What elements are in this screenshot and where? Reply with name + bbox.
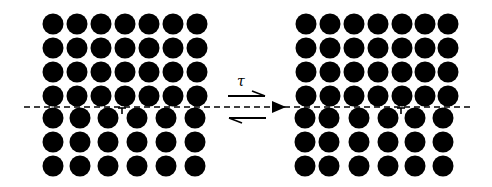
shear-arrow-top (228, 91, 265, 96)
atom (67, 62, 88, 83)
atom (163, 38, 184, 59)
atom (67, 38, 88, 59)
atom (139, 86, 160, 107)
atom (320, 38, 341, 59)
atom (296, 86, 317, 107)
atom (43, 156, 64, 177)
atom (70, 156, 91, 177)
atom (163, 62, 184, 83)
dislocation-diagram (0, 0, 492, 187)
atom (378, 108, 399, 129)
atom (185, 132, 206, 153)
atom (368, 38, 389, 59)
atom (187, 14, 208, 35)
atom (320, 14, 341, 35)
atom (187, 38, 208, 59)
atom (438, 38, 459, 59)
atom (320, 62, 341, 83)
atom (43, 62, 64, 83)
atom (98, 156, 119, 177)
atom (320, 86, 341, 107)
atom (115, 62, 136, 83)
atom (115, 38, 136, 59)
atom (139, 38, 160, 59)
atom (405, 156, 426, 177)
atom (156, 108, 177, 129)
atom (91, 86, 112, 107)
atom (185, 108, 206, 129)
atom (405, 132, 426, 153)
atom (349, 132, 370, 153)
atom (392, 38, 413, 59)
atom (91, 62, 112, 83)
atom (127, 132, 148, 153)
atom (368, 62, 389, 83)
atom (98, 108, 119, 129)
slip-plane-arrowhead (272, 101, 286, 113)
atom (368, 14, 389, 35)
atom (43, 14, 64, 35)
atom (415, 38, 436, 59)
atom (368, 86, 389, 107)
atom (43, 86, 64, 107)
atom (70, 132, 91, 153)
atom (43, 108, 64, 129)
atom (115, 14, 136, 35)
atom (415, 86, 436, 107)
atom (295, 156, 316, 177)
atom (43, 38, 64, 59)
atom (392, 86, 413, 107)
atom (43, 132, 64, 153)
atom (392, 62, 413, 83)
atom (163, 14, 184, 35)
atom (98, 132, 119, 153)
atom (344, 38, 365, 59)
atom (139, 62, 160, 83)
atom (295, 108, 316, 129)
atom (319, 156, 340, 177)
atom (438, 14, 459, 35)
atom (433, 132, 454, 153)
atom (344, 14, 365, 35)
atom (163, 86, 184, 107)
atom (187, 86, 208, 107)
atom (187, 62, 208, 83)
shear-arrow-bottom (229, 118, 266, 123)
atom (127, 156, 148, 177)
dislocation-symbol-right (397, 108, 405, 114)
atom (344, 62, 365, 83)
atom (295, 132, 316, 153)
atom (296, 14, 317, 35)
atom (91, 38, 112, 59)
atom (185, 156, 206, 177)
atom (115, 86, 136, 107)
atom (344, 86, 365, 107)
left-lattice (43, 14, 208, 177)
atom (349, 156, 370, 177)
atom (156, 156, 177, 177)
atom (438, 62, 459, 83)
atom (405, 108, 426, 129)
atom (433, 108, 454, 129)
dislocation-symbol-left (118, 108, 126, 114)
atom (139, 14, 160, 35)
atom (438, 86, 459, 107)
atom (296, 62, 317, 83)
atom (296, 38, 317, 59)
atom (433, 156, 454, 177)
right-lattice (295, 14, 459, 177)
atom (415, 14, 436, 35)
atom (70, 108, 91, 129)
atom (349, 108, 370, 129)
atom (392, 14, 413, 35)
atom (319, 108, 340, 129)
atom (127, 108, 148, 129)
atom (156, 132, 177, 153)
atom (319, 132, 340, 153)
atom (67, 86, 88, 107)
atom (415, 62, 436, 83)
shear-stress-label: τ (237, 73, 245, 89)
atom (378, 156, 399, 177)
atom (91, 14, 112, 35)
atom (67, 14, 88, 35)
